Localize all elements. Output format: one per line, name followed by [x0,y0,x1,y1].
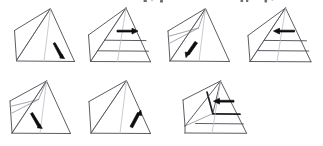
pyramid-diagram-canvas [0,0,323,146]
pyramid-diagram-sheet [0,0,323,146]
pyramid-1 [15,9,75,62]
pyramid-3 [168,9,230,62]
bold-vertical-edge [207,92,213,114]
pyramid-2 [89,8,151,62]
pyramid-7 [183,81,247,133]
pyramid-4 [248,8,311,62]
direction-arrow-left [274,28,295,34]
direction-arrow-right [117,28,138,34]
pyramid-5 [10,81,71,134]
top-margin-artifacts [144,0,274,3]
pyramid-6 [89,81,151,134]
